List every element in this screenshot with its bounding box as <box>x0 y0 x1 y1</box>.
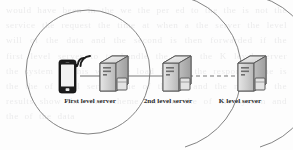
server-icon <box>238 56 266 91</box>
client-smartphone-node <box>59 56 90 93</box>
server-node-second-level <box>163 56 191 91</box>
diagram-canvas <box>0 0 293 150</box>
label-k-level-server: K level server <box>211 97 269 105</box>
server-hierarchy-figure: would have been in the we the per ed to … <box>0 0 293 150</box>
server-node-first-level <box>100 56 128 91</box>
label-first-level-server: First level server <box>56 97 124 105</box>
server-icon <box>163 56 191 91</box>
tier-1-boundary-circle <box>26 10 150 134</box>
tier-2-boundary-arc <box>185 0 242 147</box>
smartphone-wifi-icon <box>59 56 90 93</box>
server-icon <box>100 56 128 91</box>
label-second-level-server: 2nd level server <box>137 97 199 105</box>
server-node-k-level <box>238 56 266 91</box>
